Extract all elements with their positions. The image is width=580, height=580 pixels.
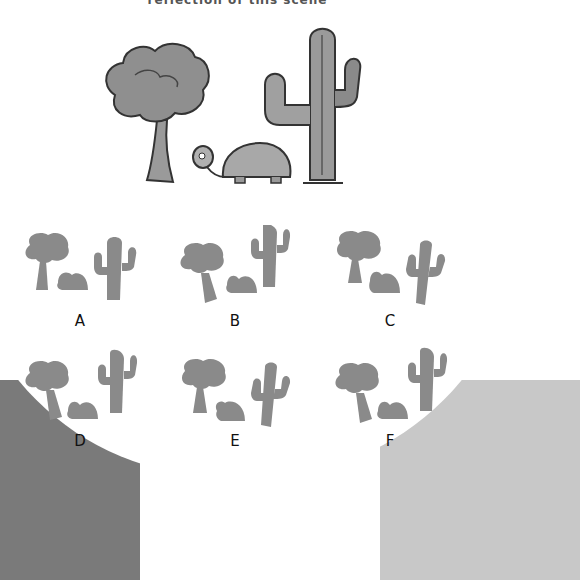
reference-scene — [95, 25, 365, 190]
option-c[interactable]: C — [320, 225, 460, 340]
turtle-icon — [193, 143, 290, 183]
option-label: F — [320, 432, 460, 450]
option-label: A — [10, 312, 150, 330]
option-a[interactable]: A — [10, 225, 150, 340]
option-d[interactable]: D — [10, 345, 150, 460]
option-label: E — [165, 432, 305, 450]
option-label: B — [165, 312, 305, 330]
option-e[interactable]: E — [165, 345, 305, 460]
option-f[interactable]: F — [320, 345, 460, 460]
option-label: C — [320, 312, 460, 330]
option-label: D — [10, 432, 150, 450]
option-b[interactable]: B — [165, 225, 305, 340]
question-prompt: reflection of this scene — [0, 0, 475, 7]
